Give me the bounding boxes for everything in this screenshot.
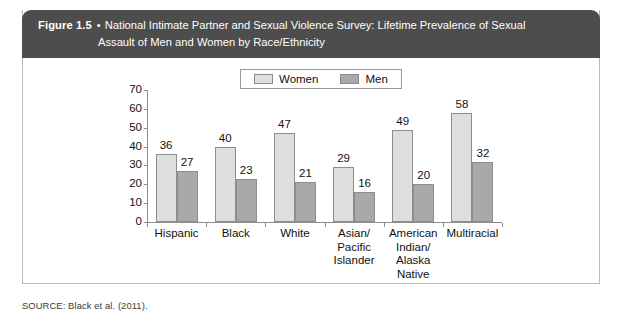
legend-item-women: Women <box>254 73 318 85</box>
legend-label-women: Women <box>279 73 318 85</box>
bar-value-label: 58 <box>447 99 477 111</box>
bar-men <box>295 182 316 222</box>
bar-men <box>354 192 375 222</box>
legend-label-men: Men <box>365 73 387 85</box>
bar-women <box>451 113 472 222</box>
bar-women <box>215 147 236 222</box>
bar-value-label: 36 <box>151 140 181 152</box>
bar-value-label: 32 <box>468 148 498 160</box>
bar-value-label: 29 <box>329 153 359 165</box>
figure-caption-text-1: National Intimate Partner and Sexual Vio… <box>105 19 526 31</box>
legend-swatch-women-icon <box>254 74 273 84</box>
figure-number: Figure 1.5 <box>38 19 92 31</box>
bar-value-label: 21 <box>290 168 320 180</box>
figure-caption-banner: Figure 1.5•National Intimate Partner and… <box>22 10 600 58</box>
y-axis-tick-mark <box>144 184 148 185</box>
x-axis-category-label: Multiracial <box>437 227 508 241</box>
legend-item-men: Men <box>340 73 387 85</box>
bullet-icon: • <box>92 19 105 31</box>
bar-value-label: 49 <box>388 116 418 128</box>
bar-men <box>177 171 198 222</box>
chart-plot-area: Women Men 010203040506070 36274023472129… <box>22 58 600 284</box>
chart-legend: Women Men <box>240 69 402 89</box>
y-axis-tick-label: 60 <box>108 103 142 115</box>
y-axis-tick-label: 20 <box>108 178 142 190</box>
y-axis-tick-label: 50 <box>108 122 142 134</box>
bar-value-label: 40 <box>210 133 240 145</box>
legend-swatch-men-icon <box>340 74 359 84</box>
bar-value-label: 20 <box>409 170 439 182</box>
bar-value-label: 23 <box>231 165 261 177</box>
bar-value-label: 16 <box>350 178 380 190</box>
y-axis-tick-label: 30 <box>108 159 142 171</box>
y-axis-tick-label: 0 <box>108 216 142 228</box>
bar-men <box>472 162 493 222</box>
y-axis-tick-label: 70 <box>108 84 142 96</box>
figure-caption-line-2: Assault of Men and Women by Race/Ethnici… <box>38 34 586 51</box>
bar-men <box>413 184 434 222</box>
y-axis-tick-mark <box>144 109 148 110</box>
y-axis-tick-mark <box>144 165 148 166</box>
figure-caption-line-1: Figure 1.5•National Intimate Partner and… <box>38 17 586 34</box>
source-note: SOURCE: Black et al. (2011). <box>22 300 148 311</box>
bar-value-label: 47 <box>269 119 299 131</box>
y-axis-tick-mark <box>144 90 148 91</box>
bar-men <box>236 179 257 222</box>
bar-value-label: 27 <box>172 157 202 169</box>
y-axis-tick-mark <box>144 147 148 148</box>
y-axis-tick-mark <box>144 128 148 129</box>
bar-women <box>333 167 354 222</box>
y-axis-tick-mark <box>144 203 148 204</box>
y-axis-tick-label: 10 <box>108 197 142 209</box>
y-axis-tick-label: 40 <box>108 141 142 153</box>
